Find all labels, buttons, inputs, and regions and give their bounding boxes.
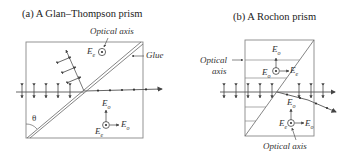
eo-label-a-up: Eo xyxy=(102,99,111,110)
ee-label-b-bottom-left: Ee xyxy=(279,119,287,130)
optical-axis-label-b-left-1: Optical xyxy=(200,56,227,65)
top-eo-sub: o xyxy=(278,50,281,56)
eo-sub: o xyxy=(108,104,111,110)
bottom-eo-sub: o xyxy=(293,103,296,109)
bottom-eo2-sub: o xyxy=(311,124,314,130)
eo-label-a-right: Eo xyxy=(121,120,130,131)
top-eo2-sub: o xyxy=(268,73,271,79)
top-ee-sub: e xyxy=(296,71,299,77)
bottom-ee-sub: e xyxy=(285,124,288,130)
optical-axis-label-b-bottom: Optical axis xyxy=(263,142,307,151)
ee-label-b-top-right: Ee xyxy=(290,66,298,77)
theta-label: θ xyxy=(32,114,36,123)
optical-axis-pointer-b-bottom xyxy=(292,128,296,140)
eo-label-b-bottom-right: Eo xyxy=(305,119,314,130)
optical-axis-label-a: Optical axis xyxy=(90,27,134,36)
glue-text: Glue xyxy=(146,50,164,60)
optical-axis-label-b-left-2: axis xyxy=(212,67,227,76)
ee2-sub: e xyxy=(101,132,104,138)
eo-label-b-bottom-up: Eo xyxy=(287,98,296,109)
ee-sub: e xyxy=(93,52,96,58)
eo-label-b-top-up: Eo xyxy=(272,45,281,56)
diagram-canvas xyxy=(0,0,357,161)
theta-arc xyxy=(26,124,37,129)
eo-label-b-top-left: Eo xyxy=(262,68,271,79)
ee-label-a-bottom: Ee xyxy=(95,127,103,138)
eo2-sub: o xyxy=(127,125,130,131)
optical-axis-pointer-a xyxy=(104,38,108,47)
reflected-beam-a xyxy=(66,50,84,91)
ee-label-a-top: Ee xyxy=(87,47,95,58)
reflected-polarization-arrows xyxy=(59,57,81,82)
glue-label: Glue xyxy=(146,51,164,60)
